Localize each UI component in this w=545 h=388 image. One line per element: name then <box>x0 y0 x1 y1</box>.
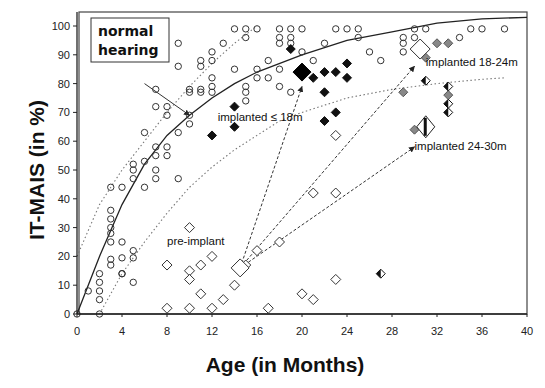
data-point <box>130 279 136 285</box>
data-point <box>468 26 474 32</box>
data-point <box>411 34 417 40</box>
data-point <box>243 98 249 104</box>
x-tick-label: 28 <box>386 325 398 337</box>
diamond-half-fill <box>421 76 426 85</box>
y-tick-label: 70 <box>58 106 70 118</box>
data-point <box>286 45 295 54</box>
data-point <box>119 184 125 190</box>
data-point <box>164 152 170 158</box>
data-point <box>119 255 125 261</box>
data-point <box>208 131 217 140</box>
data-point <box>252 246 262 256</box>
diamond-half-fill <box>444 82 449 91</box>
data-point <box>230 122 239 131</box>
legend-box: normal hearing <box>91 18 169 62</box>
legend-label-line2: hearing <box>98 42 159 58</box>
data-point <box>309 73 318 82</box>
data-point <box>320 117 329 126</box>
annotation-label: pre-implant <box>167 235 225 247</box>
data-point <box>141 129 147 135</box>
data-point <box>344 26 350 32</box>
data-point <box>185 303 195 313</box>
y-tick-label: 50 <box>58 164 70 176</box>
data-point <box>331 130 341 140</box>
y-tick-label: 0 <box>64 308 70 320</box>
data-point <box>130 255 136 261</box>
y-tick-label: 20 <box>58 250 70 262</box>
y-tick-label: 60 <box>58 135 70 147</box>
data-point <box>231 66 237 72</box>
data-point <box>153 167 159 173</box>
data-point <box>162 260 172 270</box>
arrow <box>240 66 414 268</box>
data-point <box>207 303 217 313</box>
data-point <box>220 40 226 46</box>
data-point <box>321 40 327 46</box>
data-point <box>96 270 102 276</box>
x-tick-label: 16 <box>251 325 263 337</box>
legend-label-line1: normal <box>98 23 153 39</box>
data-point <box>243 26 249 32</box>
data-point <box>343 59 352 68</box>
data-point <box>263 303 273 313</box>
data-point <box>299 26 305 32</box>
y-tick-label: 30 <box>58 222 70 234</box>
data-point <box>331 108 340 117</box>
data-point <box>96 296 102 302</box>
data-point <box>207 251 217 261</box>
data-point <box>265 75 271 81</box>
data-point <box>230 102 239 111</box>
diamond-half-fill <box>444 99 449 108</box>
series-pre-implant <box>162 130 341 313</box>
data-point <box>153 152 159 158</box>
data-point <box>108 216 114 222</box>
arrow <box>240 147 414 268</box>
x-tick-label: 40 <box>521 325 533 337</box>
data-point <box>254 75 260 81</box>
data-point <box>162 303 172 313</box>
group-mean-marker <box>293 63 311 81</box>
x-tick-label: 24 <box>341 325 353 337</box>
data-point <box>331 274 341 284</box>
y-tick-label: 80 <box>58 78 70 90</box>
data-point <box>153 103 159 109</box>
data-point <box>175 129 181 135</box>
data-point <box>308 295 318 305</box>
data-point <box>196 289 206 299</box>
data-point <box>456 34 462 40</box>
data-point <box>479 26 485 32</box>
data-point <box>230 280 240 290</box>
series-implanted-18m <box>208 45 352 140</box>
data-point <box>444 108 453 117</box>
data-point <box>421 76 430 85</box>
data-point <box>209 57 215 63</box>
data-point <box>400 49 406 55</box>
x-tick-label: 36 <box>476 325 488 337</box>
annotation-label: implanted 18-24m <box>426 56 518 68</box>
data-point <box>333 26 339 32</box>
x-tick-label: 20 <box>296 325 308 337</box>
annotations: pre-implantimplanted ≤ 18mimplanted 18-2… <box>167 56 518 247</box>
data-point <box>297 289 307 299</box>
data-point <box>175 63 181 69</box>
diamond-half-fill <box>376 269 381 278</box>
data-point <box>130 175 136 181</box>
y-tick-label: 10 <box>58 279 70 291</box>
data-point <box>399 88 408 97</box>
data-point <box>186 121 192 127</box>
data-point <box>96 279 102 285</box>
data-point <box>175 175 181 181</box>
data-point <box>119 239 125 245</box>
data-point <box>119 270 125 276</box>
data-point <box>196 260 206 270</box>
data-point <box>310 57 316 63</box>
y-tick-label: 100 <box>52 20 70 32</box>
data-point <box>331 188 341 198</box>
data-point <box>320 88 329 97</box>
data-point <box>276 66 282 72</box>
series-normal-hearing <box>74 26 508 318</box>
data-point <box>378 57 384 63</box>
data-point <box>308 188 318 198</box>
data-points <box>74 26 508 318</box>
data-point <box>366 49 372 55</box>
